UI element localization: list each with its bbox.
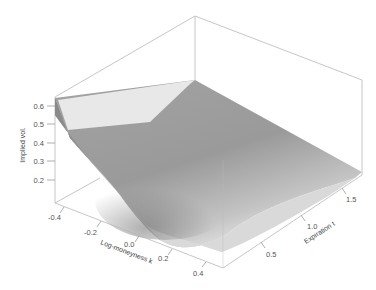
z-tick-2: 0.4 bbox=[34, 139, 55, 148]
x-tick-label: 0.4 bbox=[193, 269, 203, 278]
x-tick-label: -0.2 bbox=[84, 228, 97, 237]
z-tick-label: 0.3 bbox=[34, 157, 44, 166]
z-axis: 0.6 0.5 0.4 0.3 0.2 Implied vol. bbox=[19, 102, 55, 185]
z-tick-label: 0.4 bbox=[34, 139, 44, 148]
x-tick-label: 0.2 bbox=[158, 254, 168, 263]
z-tick-label: 0.5 bbox=[34, 120, 44, 129]
implied-vol-surface-plot: 0.6 0.5 0.4 0.3 0.2 Implied vol. -0.4 -0… bbox=[0, 0, 376, 290]
z-tick-0: 0.6 bbox=[34, 102, 55, 111]
y-tick-label: 1.5 bbox=[346, 195, 356, 204]
z-axis-title: Implied vol. bbox=[19, 127, 27, 162]
z-tick-label: 0.2 bbox=[34, 176, 44, 185]
z-tick-1: 0.5 bbox=[34, 120, 55, 129]
z-tick-4: 0.2 bbox=[34, 176, 55, 185]
x-tick-label: -0.4 bbox=[48, 213, 61, 222]
z-tick-3: 0.3 bbox=[34, 157, 55, 166]
z-tick-label: 0.6 bbox=[34, 102, 44, 111]
y-tick-label: 0.5 bbox=[266, 250, 276, 259]
